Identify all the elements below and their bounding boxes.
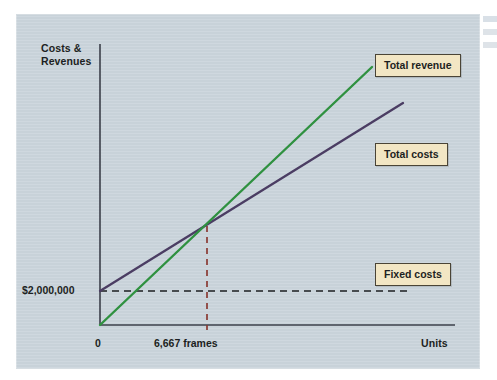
x-axis-tick-label-zero: 0 [95,337,101,349]
edge-mark [483,16,497,22]
total-costs-line [100,103,403,291]
chart-figure-panel: Costs & Revenues Units $2,000,000 0 6,66… [16,14,480,369]
callout-total-costs: Total costs [375,143,448,166]
edge-mark [483,29,497,35]
callout-total-revenue: Total revenue [375,54,461,77]
plot-area: Costs & Revenues Units $2,000,000 0 6,66… [16,14,480,369]
y-axis-tick-label-fixed-costs: $2,000,000 [22,284,75,296]
y-axis-title: Costs & Revenues [41,42,91,67]
callout-fixed-costs: Fixed costs [375,263,451,286]
total-revenue-line [100,67,372,325]
edge-mark [483,42,497,48]
page-edge-marginalia [483,16,497,62]
x-axis-title: Units [421,337,448,350]
x-axis-tick-label-breakeven: 6,667 frames [154,337,218,349]
